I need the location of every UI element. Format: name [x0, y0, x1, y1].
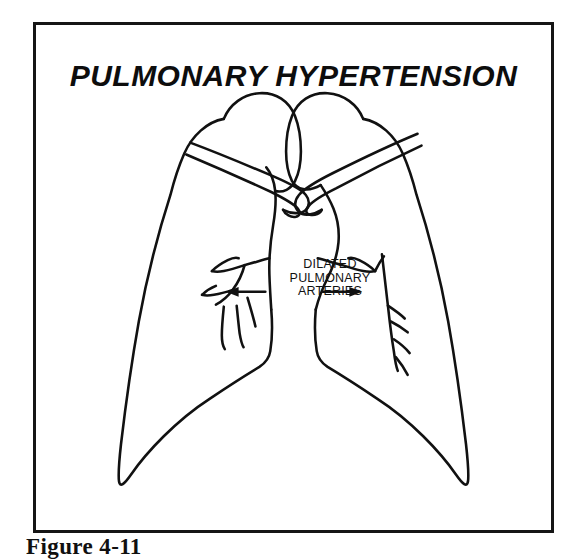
right-artery-branch-mid-b [391, 321, 408, 332]
annotation-label: DILATED PULMONARY ARTERIES [274, 258, 386, 299]
annotation-line-dilated: DILATED [274, 258, 386, 272]
figure-caption: Figure 4-11 [26, 534, 142, 560]
annotation-line-pulmonary: PULMONARY [274, 272, 386, 286]
annotation-line-arteries: ARTERIES [274, 285, 386, 299]
right-artery-branch-lower [394, 339, 410, 353]
left-artery-branch-tip-a [202, 286, 216, 295]
left-artery-descending-c [248, 298, 256, 327]
left-artery-descending-b [237, 306, 244, 348]
right-lung-outline [315, 119, 468, 485]
illustration-frame: PULMONARY HYPERTENSION [33, 22, 554, 533]
left-artery-descending [222, 307, 225, 349]
arrow-left [226, 287, 266, 297]
